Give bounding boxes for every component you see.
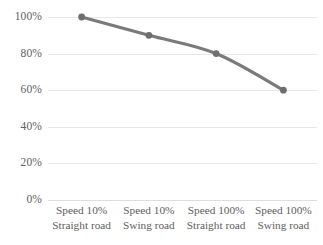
y-tick-label-2: 60%: [21, 84, 42, 96]
x-category-label-3-line2: Swing road: [250, 218, 317, 233]
chart-container: 100% 80% 60% 40% 20% 0% Speed 10% Straig…: [0, 0, 323, 245]
x-category-label-2: Speed 100% Straight road: [183, 203, 250, 243]
plot-area: [48, 17, 317, 200]
x-category-label-0: Speed 10% Straight road: [48, 203, 115, 243]
x-category-label-2-line1: Speed 100%: [183, 203, 250, 218]
x-category-label-3: Speed 100% Swing road: [250, 203, 317, 243]
y-tick-label-1: 80%: [21, 48, 42, 60]
x-category-label-1-line1: Speed 10%: [115, 203, 182, 218]
data-series-line: [48, 17, 317, 200]
y-tick-label-0: 100%: [15, 11, 42, 23]
y-tick-label-5: 0%: [26, 194, 42, 206]
y-tick-label-4: 20%: [21, 158, 42, 170]
y-axis: 100% 80% 60% 40% 20% 0%: [0, 0, 44, 245]
data-point-marker: [280, 87, 287, 94]
x-category-label-2-line2: Straight road: [183, 218, 250, 233]
x-category-label-0-line2: Straight road: [48, 218, 115, 233]
x-axis: Speed 10% Straight road Speed 10% Swing …: [48, 203, 317, 243]
x-category-label-0-line1: Speed 10%: [48, 203, 115, 218]
x-category-label-1: Speed 10% Swing road: [115, 203, 182, 243]
gridline-0-axis: [48, 200, 317, 201]
data-point-marker: [78, 14, 85, 21]
data-point-marker: [145, 32, 152, 39]
x-category-label-3-line1: Speed 100%: [250, 203, 317, 218]
data-point-marker: [213, 50, 220, 57]
y-tick-label-3: 40%: [21, 121, 42, 133]
x-category-label-1-line2: Swing road: [115, 218, 182, 233]
series-path: [82, 17, 284, 90]
